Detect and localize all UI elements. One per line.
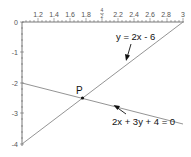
intersection-point: [81, 96, 84, 99]
x-tick-label: 2.4: [129, 11, 139, 18]
arrow-head-icon: [125, 54, 130, 61]
y-tick-label: -3: [12, 110, 18, 117]
x-tick-label: 3: [181, 11, 185, 18]
y-tick-label: 0: [14, 19, 18, 26]
x-tick-frac-den: 2: [101, 13, 104, 19]
equation-label-line1: y = 2x - 6: [116, 31, 155, 42]
x-tick-label: 1.8: [81, 11, 91, 18]
x-tick-label: 2.6: [145, 11, 155, 18]
y-tick-label: -1: [12, 49, 18, 56]
y-tick-label: -4: [12, 141, 18, 148]
x-tick-label: 1.2: [33, 11, 43, 18]
x-tick-labels: 1.2 1.4 1.6 1.8 4 2 2.2 2.4 2.6 2.8 3: [33, 7, 185, 19]
y-tick-label: -2: [12, 80, 18, 87]
x-tick-label: 2.2: [113, 11, 123, 18]
x-tick-label: 1.6: [65, 11, 75, 18]
graph-canvas: 1.2 1.4 1.6 1.8 4 2 2.2 2.4 2.6 2.8 3 0 …: [0, 0, 191, 157]
y-axis: [20, 22, 24, 146]
x-tick-label: 2.8: [161, 11, 171, 18]
y-tick-labels: 0 -1 -2 -3 -4: [12, 19, 18, 148]
arrow-line1: [128, 44, 132, 56]
x-tick-label: 1.4: [49, 11, 59, 18]
point-label-p: P: [76, 85, 83, 96]
equation-label-line2: 2x + 3y + 4 = 0: [112, 116, 175, 127]
